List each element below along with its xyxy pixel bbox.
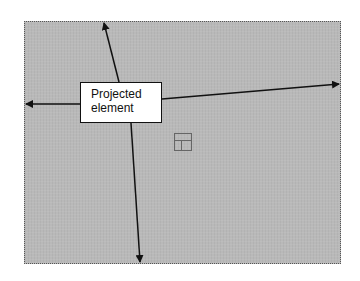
label-line-1: Projected bbox=[91, 87, 161, 101]
element-square-icon bbox=[174, 133, 192, 151]
projected-element-label: Projected element bbox=[80, 82, 162, 123]
arrow-down bbox=[131, 123, 140, 262]
arrow-up bbox=[104, 23, 119, 82]
square-divider-vertical bbox=[181, 140, 182, 150]
label-line-2: element bbox=[91, 101, 161, 115]
arrow-right bbox=[162, 84, 339, 99]
square-divider-horizontal bbox=[175, 140, 191, 141]
